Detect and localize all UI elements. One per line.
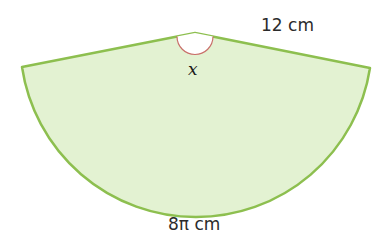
- angle-label: x: [188, 59, 198, 79]
- sector-diagram: x 12 cm 8π cm: [0, 0, 386, 240]
- arc-length-label: 8π cm: [168, 214, 220, 234]
- radius-label: 12 cm: [261, 15, 314, 35]
